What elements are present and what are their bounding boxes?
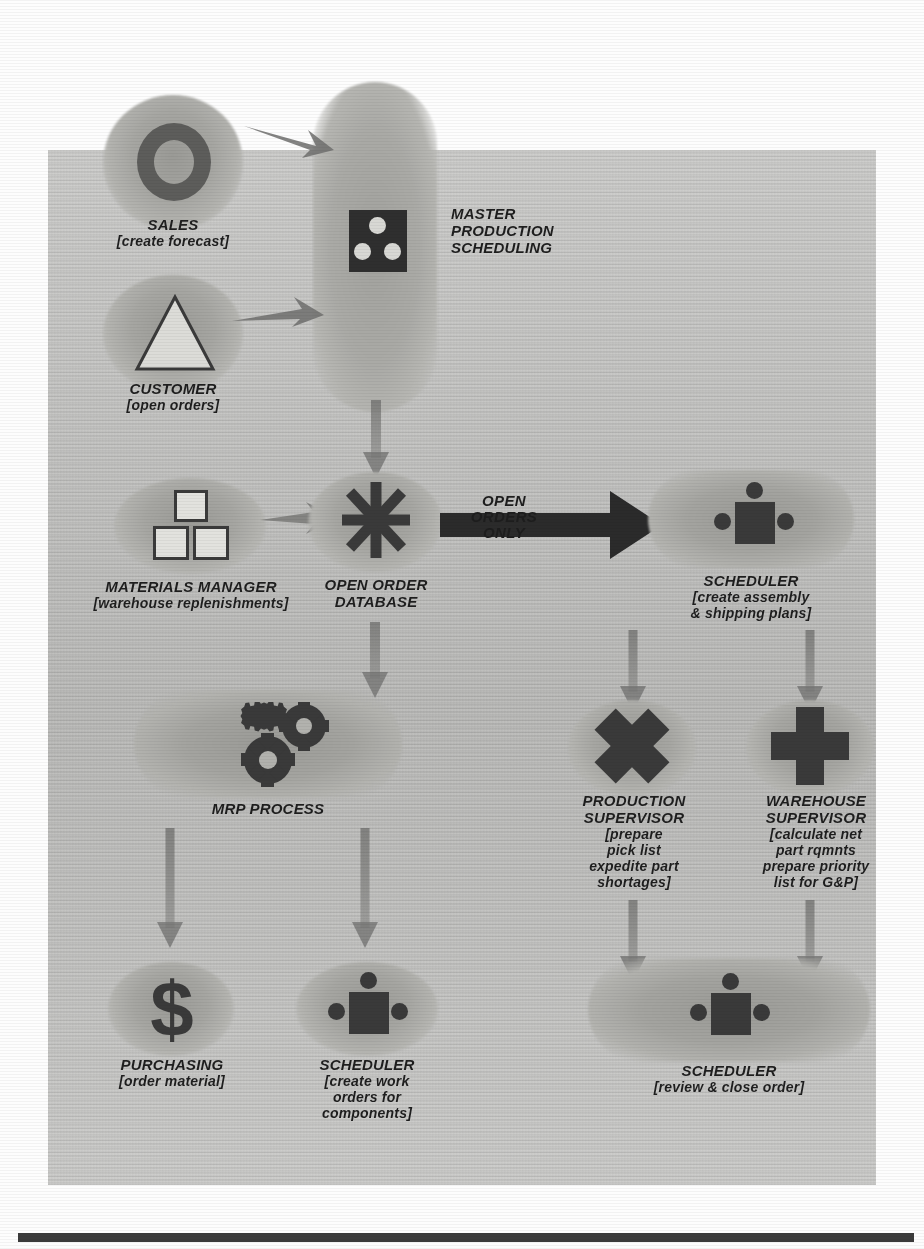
scheduler-work-orders-title: SCHEDULER	[277, 1056, 457, 1073]
purchasing-title: PURCHASING	[82, 1056, 262, 1073]
caption-scheduler-close-order: SCHEDULER [review & close order]	[595, 1062, 863, 1095]
caption-sales: SALES [create forecast]	[78, 216, 268, 249]
purchasing-subtitle: [order material]	[82, 1073, 262, 1089]
sales-title: SALES	[78, 216, 268, 233]
sales-subtitle: [create forecast]	[78, 233, 268, 249]
scheduler-work-orders-subtitle: [create work orders for components]	[277, 1073, 457, 1121]
dice-three-icon	[349, 210, 407, 272]
mrp-process-title: MRP PROCESS	[168, 800, 368, 817]
caption-master-production-scheduling: MASTER PRODUCTION SCHEDULING	[451, 205, 641, 256]
node-warehouse-supervisor[interactable]	[746, 700, 874, 796]
triangle-icon	[133, 293, 217, 375]
blocks-icon	[153, 490, 231, 562]
node-purchasing[interactable]: $	[108, 962, 234, 1056]
scheduler-assembly-title: SCHEDULER	[645, 572, 857, 589]
caption-warehouse-supervisor: WAREHOUSE SUPERVISOR [calculate net part…	[728, 792, 904, 890]
production-supervisor-title: PRODUCTION SUPERVISOR	[548, 792, 720, 826]
customer-subtitle: [open orders]	[68, 397, 278, 413]
open-order-database-title: OPEN ORDER DATABASE	[288, 576, 464, 610]
production-supervisor-subtitle: [prepare pick list expedite part shortag…	[548, 826, 720, 890]
cross-x-icon	[590, 704, 674, 788]
person-table-icon	[690, 973, 768, 1047]
connector-open-orders-only: OPEN ORDERS ONLY	[440, 490, 670, 560]
node-customer[interactable]	[103, 275, 243, 393]
svg-text:$: $	[150, 970, 193, 1050]
dollar-sign-icon: $	[144, 970, 200, 1050]
node-sales[interactable]	[103, 95, 243, 230]
gears-icon	[228, 702, 340, 788]
plus-icon	[768, 704, 852, 788]
connector-mrp-to-scheduler-work-orders	[345, 828, 385, 958]
materials-manager-title: MATERIALS MANAGER	[55, 578, 327, 595]
caption-mrp-process: MRP PROCESS	[168, 800, 368, 817]
caption-production-supervisor: PRODUCTION SUPERVISOR [prepare pick list…	[548, 792, 720, 890]
node-open-order-database[interactable]	[308, 472, 442, 572]
caption-materials-manager: MATERIALS MANAGER [warehouse replenishme…	[55, 578, 327, 611]
warehouse-supervisor-title: WAREHOUSE SUPERVISOR	[728, 792, 904, 826]
node-scheduler-assembly[interactable]	[648, 470, 854, 568]
node-scheduler-close-order[interactable]	[588, 958, 870, 1062]
asterisk-icon	[337, 478, 415, 562]
scheduler-close-order-subtitle: [review & close order]	[595, 1079, 863, 1095]
open-orders-only-label: OPEN ORDERS ONLY	[444, 493, 564, 541]
connector-customer-to-mps	[228, 295, 328, 340]
caption-scheduler-assembly: SCHEDULER [create assembly & shipping pl…	[645, 572, 857, 621]
node-scheduler-work-orders[interactable]	[296, 962, 438, 1056]
caption-open-order-database: OPEN ORDER DATABASE	[288, 576, 464, 610]
caption-scheduler-work-orders: SCHEDULER [create work orders for compon…	[277, 1056, 457, 1121]
person-table-icon	[328, 972, 406, 1046]
mps-title: MASTER PRODUCTION SCHEDULING	[451, 205, 641, 256]
materials-manager-subtitle: [warehouse replenishments]	[55, 595, 327, 611]
warehouse-supervisor-subtitle: [calculate net part rqmnts prepare prior…	[728, 826, 904, 890]
scheduler-close-order-title: SCHEDULER	[595, 1062, 863, 1079]
node-materials-manager[interactable]	[114, 478, 266, 574]
connector-sales-to-mps	[238, 120, 338, 170]
caption-purchasing: PURCHASING [order material]	[82, 1056, 262, 1089]
scheduler-assembly-subtitle: [create assembly & shipping plans]	[645, 589, 857, 621]
node-mrp-process[interactable]	[134, 690, 402, 798]
connector-mrp-to-purchasing	[150, 828, 190, 958]
ring-icon	[137, 123, 211, 201]
node-production-supervisor[interactable]	[568, 700, 696, 796]
customer-title: CUSTOMER	[68, 380, 278, 397]
bottom-rule-bar	[18, 1233, 914, 1242]
person-table-icon	[714, 482, 792, 556]
caption-customer: CUSTOMER [open orders]	[68, 380, 278, 413]
